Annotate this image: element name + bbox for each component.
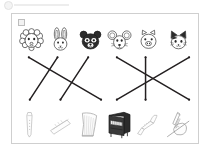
- trumpet-icon: [135, 110, 162, 140]
- match-line-endpoint[interactable]: [188, 99, 190, 101]
- instrument-item-harp[interactable]: [77, 110, 104, 140]
- match-line-endpoint[interactable]: [29, 99, 31, 101]
- harp-icon: [77, 110, 104, 140]
- match-line[interactable]: [60, 57, 88, 99]
- match-line[interactable]: [117, 57, 189, 99]
- instrument-item-recorder[interactable]: [18, 110, 45, 140]
- match-line-endpoint[interactable]: [28, 56, 30, 58]
- animal-item-bear[interactable]: [77, 25, 104, 55]
- match-line-endpoint[interactable]: [116, 99, 118, 101]
- harmonica-icon: [47, 110, 74, 140]
- mouse-face-icon: [106, 27, 133, 54]
- worksheet-sheet: [11, 13, 199, 144]
- animal-faces-row: [12, 25, 198, 55]
- page-corner-mark-icon: [4, 1, 13, 10]
- match-line-endpoint[interactable]: [144, 56, 146, 58]
- pig-face-icon: [135, 27, 162, 54]
- match-line-endpoint[interactable]: [87, 56, 89, 58]
- upright-piano-icon: [106, 110, 133, 140]
- match-line[interactable]: [30, 57, 58, 99]
- instrument-item-violin[interactable]: [165, 110, 192, 140]
- violin-icon: [165, 110, 192, 140]
- bear-face-icon: [77, 27, 104, 54]
- match-line-endpoint[interactable]: [188, 56, 190, 58]
- worksheet-page: [0, 0, 213, 152]
- match-line-endpoint[interactable]: [59, 99, 61, 101]
- match-line[interactable]: [117, 57, 189, 99]
- animal-item-sheep[interactable]: [18, 25, 45, 55]
- recorder-flute-icon: [18, 110, 45, 140]
- instrument-item-harmonica[interactable]: [47, 110, 74, 140]
- match-line-endpoint[interactable]: [100, 99, 102, 101]
- animal-item-pig[interactable]: [135, 25, 162, 55]
- animal-item-cat[interactable]: [165, 25, 192, 55]
- musical-instruments-row: [12, 108, 198, 142]
- page-top-rule: [14, 4, 69, 6]
- instrument-item-piano[interactable]: [106, 110, 133, 140]
- match-line-endpoint[interactable]: [56, 56, 58, 58]
- cat-face-icon: [165, 27, 192, 54]
- animal-item-rabbit[interactable]: [47, 25, 74, 55]
- match-line[interactable]: [29, 57, 101, 99]
- sheep-face-icon: [18, 27, 45, 54]
- rabbit-face-icon: [47, 27, 74, 54]
- animal-item-mouse[interactable]: [106, 25, 133, 55]
- instrument-item-trumpet[interactable]: [135, 110, 162, 140]
- match-line-endpoint[interactable]: [116, 56, 118, 58]
- match-line-endpoint[interactable]: [144, 99, 146, 101]
